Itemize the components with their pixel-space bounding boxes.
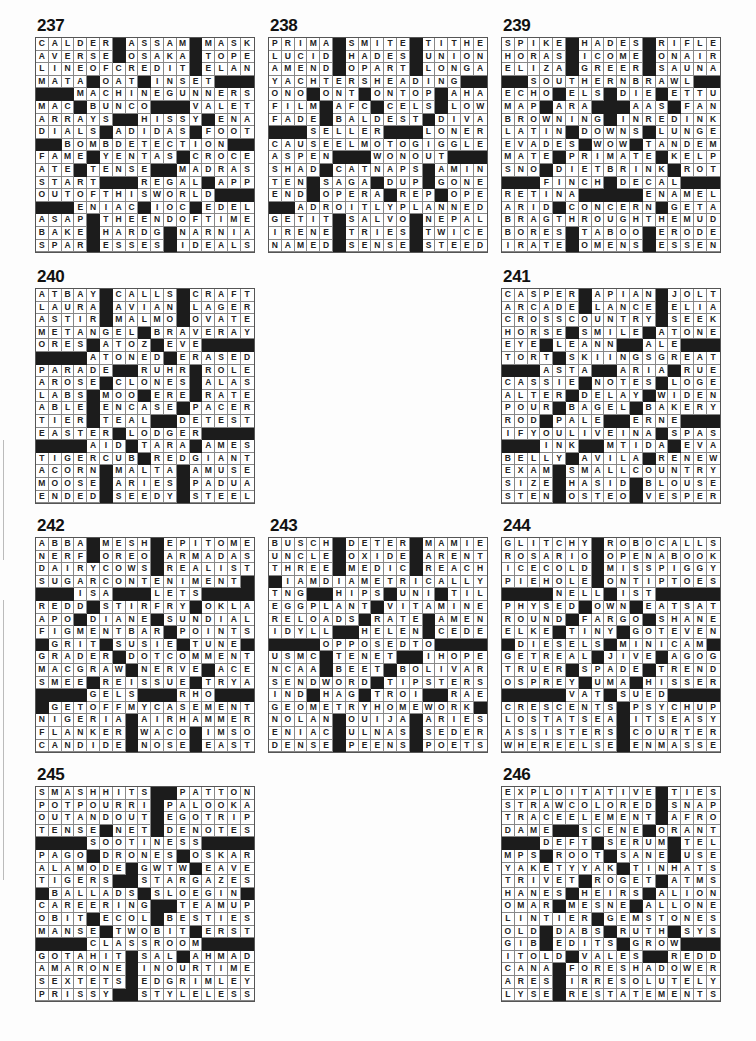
letter-cell: T bbox=[113, 926, 126, 939]
black-square bbox=[74, 689, 87, 702]
letter-cell: T bbox=[540, 538, 553, 551]
letter-cell: T bbox=[62, 951, 75, 964]
letter-cell: T bbox=[215, 825, 228, 838]
letter-cell: A bbox=[151, 302, 164, 315]
letter-cell: T bbox=[241, 101, 254, 114]
letter-cell: I bbox=[113, 787, 126, 800]
letter-cell: L bbox=[694, 976, 707, 989]
letter-cell: N bbox=[228, 888, 241, 901]
black-square bbox=[190, 365, 203, 378]
letter-cell: E bbox=[177, 390, 190, 403]
black-square bbox=[668, 164, 681, 177]
letter-cell: D bbox=[410, 76, 423, 89]
letter-cell: D bbox=[126, 126, 139, 139]
letter-cell: D bbox=[528, 926, 541, 939]
black-square bbox=[190, 377, 203, 390]
black-square bbox=[707, 938, 720, 951]
letter-cell: A bbox=[579, 101, 592, 114]
letter-cell: O bbox=[617, 227, 630, 240]
letter-cell: O bbox=[643, 465, 656, 478]
black-square bbox=[100, 825, 113, 838]
letter-cell: G bbox=[87, 689, 100, 702]
black-square bbox=[643, 126, 656, 139]
letter-cell: N bbox=[282, 88, 295, 101]
letter-cell: A bbox=[592, 614, 605, 627]
letter-cell: L bbox=[100, 938, 113, 951]
letter-cell: P bbox=[592, 664, 605, 677]
letter-cell: N bbox=[668, 139, 681, 152]
letter-cell: E bbox=[384, 639, 397, 652]
letter-cell: N bbox=[592, 626, 605, 639]
letter-cell: E bbox=[113, 538, 126, 551]
letter-cell: O bbox=[228, 787, 241, 800]
letter-cell: T bbox=[668, 576, 681, 589]
letter-cell: P bbox=[164, 800, 177, 813]
black-square bbox=[617, 938, 630, 951]
letter-cell: A bbox=[100, 588, 113, 601]
letter-cell: E bbox=[113, 151, 126, 164]
letter-cell: S bbox=[346, 614, 359, 627]
letter-cell: C bbox=[113, 377, 126, 390]
letter-cell: R bbox=[74, 177, 87, 190]
letter-cell: H bbox=[566, 538, 579, 551]
letter-cell: H bbox=[320, 689, 333, 702]
letter-cell: D bbox=[151, 352, 164, 365]
black-square bbox=[74, 352, 87, 365]
letter-cell: R bbox=[177, 551, 190, 564]
letter-cell: I bbox=[100, 614, 113, 627]
letter-cell: T bbox=[448, 38, 461, 51]
black-square bbox=[592, 651, 605, 664]
letter-cell: C bbox=[592, 825, 605, 838]
letter-cell: H bbox=[502, 888, 515, 901]
letter-cell: A bbox=[592, 227, 605, 240]
letter-cell: C bbox=[307, 538, 320, 551]
letter-cell: Y bbox=[87, 289, 100, 302]
letter-cell: R bbox=[177, 875, 190, 888]
letter-cell: O bbox=[592, 214, 605, 227]
letter-cell: S bbox=[656, 63, 669, 76]
letter-cell: S bbox=[62, 428, 75, 441]
letter-cell: F bbox=[100, 63, 113, 76]
letter-cell: R bbox=[668, 951, 681, 964]
black-square bbox=[630, 478, 643, 491]
letter-cell: E bbox=[694, 787, 707, 800]
letter-cell: T bbox=[151, 989, 164, 1002]
black-square bbox=[241, 428, 254, 441]
letter-cell: S bbox=[74, 339, 87, 352]
letter-cell: I bbox=[656, 677, 669, 690]
letter-cell: C bbox=[113, 913, 126, 926]
letter-cell: L bbox=[474, 588, 487, 601]
letter-cell: E bbox=[579, 727, 592, 740]
letter-cell: T bbox=[113, 601, 126, 614]
letter-cell: N bbox=[707, 390, 720, 403]
letter-cell: E bbox=[694, 139, 707, 152]
black-square bbox=[656, 302, 669, 315]
black-square bbox=[113, 38, 126, 51]
letter-cell: T bbox=[138, 825, 151, 838]
letter-cell: T bbox=[202, 812, 215, 825]
letter-cell: D bbox=[528, 415, 541, 428]
letter-cell: N bbox=[371, 727, 384, 740]
black-square bbox=[36, 588, 49, 601]
black-square bbox=[604, 365, 617, 378]
black-square bbox=[346, 626, 359, 639]
letter-cell: O bbox=[202, 825, 215, 838]
letter-cell: I bbox=[604, 478, 617, 491]
black-square bbox=[681, 588, 694, 601]
letter-cell: D bbox=[359, 677, 372, 690]
letter-cell: I bbox=[126, 677, 139, 690]
letter-cell: S bbox=[592, 900, 605, 913]
letter-cell: T bbox=[62, 327, 75, 340]
letter-cell: R bbox=[540, 402, 553, 415]
letter-cell: E bbox=[617, 900, 630, 913]
letter-cell: O bbox=[540, 88, 553, 101]
black-square bbox=[540, 415, 553, 428]
letter-cell: T bbox=[617, 440, 630, 453]
letter-cell: O bbox=[694, 164, 707, 177]
letter-cell: K bbox=[215, 850, 228, 863]
letter-cell: A bbox=[177, 800, 190, 813]
letter-cell: R bbox=[241, 850, 254, 863]
letter-cell: S bbox=[177, 837, 190, 850]
letter-cell: N bbox=[333, 88, 346, 101]
letter-cell: E bbox=[241, 390, 254, 403]
